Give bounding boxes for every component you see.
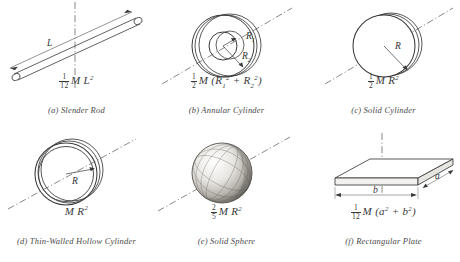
fraction: 1 12 bbox=[59, 73, 69, 89]
formula-solid-cylinder: 1 2 M R2 bbox=[307, 73, 460, 89]
dimension-label-R: R bbox=[395, 41, 401, 51]
caption-thin-walled-hollow-cylinder: (d) Thin-Walled Hollow Cylinder bbox=[0, 236, 153, 246]
dimension-label-a: a bbox=[435, 171, 440, 181]
figure-item-solid-cylinder: R 1 2 M R2 (c) Solid Cylinder bbox=[307, 0, 460, 131]
caption-solid-cylinder: (c) Solid Cylinder bbox=[307, 105, 460, 115]
formula-slender-rod: 1 12 M L2 bbox=[0, 73, 153, 89]
formula-solid-sphere: 2 5 M R2 bbox=[150, 204, 303, 220]
formula-annular-cylinder: 1 2 M (R12 + R22) bbox=[150, 73, 303, 89]
rotation-axis bbox=[8, 139, 136, 209]
fraction: 1 2 bbox=[191, 73, 197, 89]
figure-item-thin-walled-hollow-cylinder: R M R2 (d) Thin-Walled Hollow Cylinder bbox=[0, 131, 153, 262]
fraction: 1 12 bbox=[351, 204, 361, 220]
dimension-label-R: R bbox=[72, 176, 78, 186]
caption-annular-cylinder: (b) Annular Cylinder bbox=[150, 105, 303, 115]
dimension-label-R1: R1 bbox=[246, 31, 255, 43]
dimension-label-L: L bbox=[47, 38, 52, 48]
caption-slender-rod: (a) Slender Rod bbox=[0, 105, 153, 115]
formula-thin-walled-hollow-cylinder: M R2 bbox=[0, 204, 153, 217]
figure-item-rectangular-plate: b a 1 12 M (a2 + b2) (f) Rectangular Pla… bbox=[307, 131, 460, 262]
formula-rectangular-plate: 1 12 M (a2 + b2) bbox=[307, 204, 460, 220]
dimension-label-b: b bbox=[373, 185, 378, 195]
figure-item-annular-cylinder: R1 R2 1 2 M (R12 + R22) (b) Annular Cyli… bbox=[150, 0, 303, 131]
dimension-label-R2: R2 bbox=[242, 51, 251, 63]
caption-solid-sphere: (e) Solid Sphere bbox=[150, 236, 303, 246]
fraction: 2 5 bbox=[211, 204, 217, 220]
figure-item-slender-rod: L 1 12 M L2 (a) Slender Rod bbox=[0, 0, 153, 131]
moment-of-inertia-figure: L 1 12 M L2 (a) Slender Rod bbox=[0, 0, 460, 262]
fraction: 1 2 bbox=[368, 73, 374, 89]
figure-item-solid-sphere: 2 5 M R2 (e) Solid Sphere bbox=[150, 131, 303, 262]
caption-rectangular-plate: (f) Rectangular Plate bbox=[307, 236, 460, 246]
